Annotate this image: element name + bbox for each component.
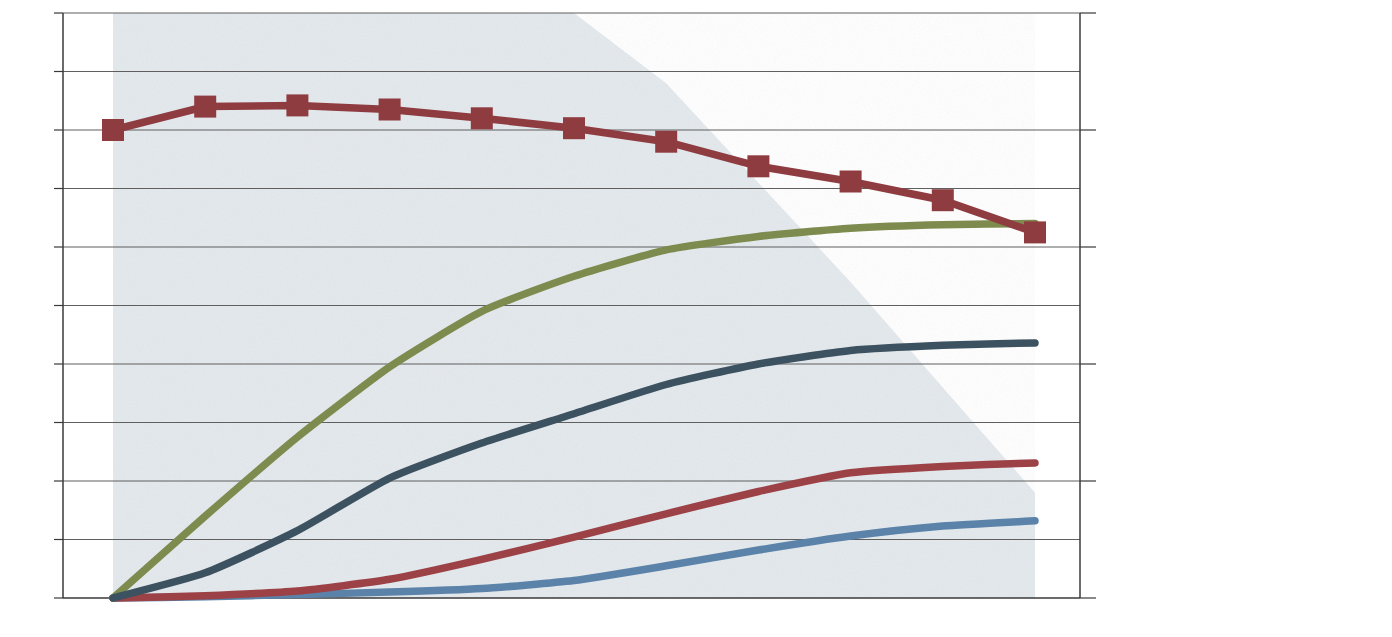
retirement-simulation-chart [0,0,1392,637]
series-marker [655,131,677,153]
series-marker [932,189,954,211]
plot-area [0,0,1392,637]
series-marker [471,107,493,129]
series-marker [1024,221,1046,243]
series-marker [379,99,401,121]
series-marker [563,117,585,139]
series-marker [747,155,769,177]
series-marker [194,96,216,118]
series-marker [102,119,124,141]
series-marker [840,171,862,193]
series-marker [286,94,308,116]
